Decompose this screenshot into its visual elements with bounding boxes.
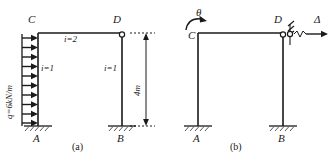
left-column-stiffness-label: i=1 xyxy=(41,64,54,73)
support-b-hatch-b xyxy=(270,127,294,132)
load-arrow xyxy=(22,54,38,61)
figure-canvas: C D A B i=2 i=1 i=1 q=6kN/m 4m (a) xyxy=(0,0,333,162)
dimension-label-4m: 4m xyxy=(133,85,142,96)
node-label-a-b: A xyxy=(193,133,200,144)
load-arrow xyxy=(22,63,38,70)
right-column-stiffness-label: i=1 xyxy=(104,64,117,73)
hinge-circle-d xyxy=(119,32,124,37)
support-d-spring-b xyxy=(294,31,306,37)
panel-b-drawing xyxy=(166,0,333,162)
load-arrow xyxy=(22,92,38,99)
load-arrow xyxy=(22,73,38,80)
node-label-b-a: B xyxy=(117,133,124,144)
node-label-c-a: C xyxy=(28,14,35,25)
load-arrows xyxy=(22,35,38,127)
distributed-load-label: q=6kN/m xyxy=(5,85,14,119)
displacement-label-delta: Δ xyxy=(314,14,320,25)
caption-b: (b) xyxy=(230,141,242,152)
caption-a: (a) xyxy=(72,141,83,152)
panel-b: C D A B θ Δ (b) xyxy=(166,0,333,162)
load-arrow xyxy=(22,120,38,127)
displacement-arrow-delta xyxy=(306,31,328,38)
node-label-c-b: C xyxy=(188,30,195,41)
beam-stiffness-label: i=2 xyxy=(64,35,77,44)
support-a-hatch-b xyxy=(185,127,209,132)
node-label-d-b: D xyxy=(274,14,282,25)
node-label-b-b: B xyxy=(278,133,285,144)
rotation-label-theta: θ xyxy=(196,7,201,18)
load-arrow xyxy=(22,101,38,108)
node-label-d-a: D xyxy=(113,14,121,25)
load-arrow xyxy=(22,82,38,89)
panel-a-drawing xyxy=(0,0,166,162)
panel-a: C D A B i=2 i=1 i=1 q=6kN/m 4m (a) xyxy=(0,0,166,162)
support-b-hatch xyxy=(109,127,133,132)
load-arrow xyxy=(22,44,38,51)
node-label-a-a: A xyxy=(33,133,40,144)
load-arrow xyxy=(22,35,38,42)
load-arrow xyxy=(22,111,38,118)
dimension-4m xyxy=(130,33,155,126)
support-a-hatch xyxy=(25,127,49,132)
hinge-circle-d-b xyxy=(280,32,285,37)
support-d-pin-b xyxy=(287,31,292,36)
